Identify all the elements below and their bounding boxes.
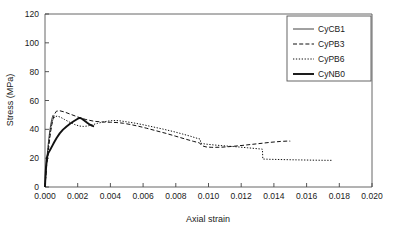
legend-label-cynb0: CyNB0 <box>318 69 345 79</box>
x-tick-label: 0.000 <box>34 191 56 201</box>
legend-label-cycb1: CyCB1 <box>318 24 345 34</box>
x-axis-title: Axial strain <box>186 214 230 224</box>
y-tick-label: 20 <box>30 153 40 163</box>
y-tick-label: 100 <box>25 38 39 48</box>
y-tick-label: 40 <box>30 124 40 134</box>
x-tick-label: 0.002 <box>67 191 89 201</box>
series-line-cypb3 <box>45 111 290 187</box>
x-tick-label: 0.018 <box>329 191 351 201</box>
y-tick-label: 120 <box>25 9 39 19</box>
x-tick-label: 0.004 <box>100 191 122 201</box>
stress-strain-plot: 020406080100120 0.0000.0020.0040.0060.00… <box>0 0 398 229</box>
series-group <box>45 111 333 187</box>
series-line-cynb0 <box>45 118 94 187</box>
x-tick-label: 0.006 <box>132 191 154 201</box>
x-tick-label: 0.012 <box>231 191 253 201</box>
legend: CyCB1CyPB3CyPB6CyNB0 <box>287 16 371 81</box>
y-axis-title: Stress (MPa) <box>5 74 15 127</box>
legend-label-cypb6: CyPB6 <box>318 54 345 64</box>
chart-figure: 020406080100120 0.0000.0020.0040.0060.00… <box>0 0 398 229</box>
x-axis-ticks: 0.0000.0020.0040.0060.0080.0100.0120.014… <box>34 183 383 201</box>
y-tick-label: 60 <box>30 96 40 106</box>
x-tick-label: 0.016 <box>296 191 318 201</box>
x-tick-label: 0.020 <box>361 191 383 201</box>
legend-label-cypb3: CyPB3 <box>318 39 345 49</box>
x-tick-label: 0.008 <box>165 191 187 201</box>
y-tick-label: 80 <box>30 67 40 77</box>
x-tick-label: 0.014 <box>263 191 285 201</box>
series-line-cypb6 <box>45 116 333 187</box>
x-tick-label: 0.010 <box>198 191 220 201</box>
